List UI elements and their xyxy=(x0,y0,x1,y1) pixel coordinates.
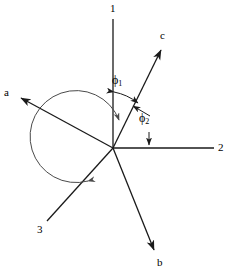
angle-label-phi-1: ϕ1 xyxy=(112,74,122,88)
arc-phi-1 xyxy=(114,92,138,103)
vector-axis-diagram: 1 2 3 a b c ϕ1 ϕ2 xyxy=(0,0,230,274)
phi-1-subscript: 1 xyxy=(118,79,122,88)
vector-c-line xyxy=(113,50,161,148)
axis-label-2: 2 xyxy=(218,142,224,153)
vector-label-b: b xyxy=(157,257,163,268)
angle-label-phi-2: ϕ2 xyxy=(139,112,149,126)
vector-label-c: c xyxy=(160,30,165,41)
axis-3-line xyxy=(47,148,113,221)
axis-label-3: 3 xyxy=(37,224,43,235)
vector-label-a: a xyxy=(4,87,9,98)
phi-2-subscript: 2 xyxy=(145,117,149,126)
vector-a-line xyxy=(21,98,113,148)
vector-b-line xyxy=(113,148,154,250)
arc-sweep xyxy=(30,91,119,183)
diagram-canvas xyxy=(0,0,230,274)
axis-label-1: 1 xyxy=(110,3,116,14)
